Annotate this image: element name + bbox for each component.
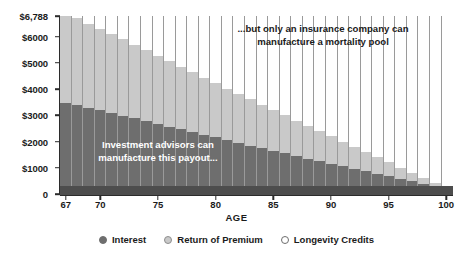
x-axis-tick-label: 90 — [326, 199, 337, 210]
x-axis-tick-label: 67 — [60, 199, 71, 210]
legend-label-interest: Interest — [112, 234, 146, 245]
y-axis-tick-label: 0 — [43, 189, 48, 200]
bar-segment-return-of-premium — [349, 147, 360, 169]
bar-column[interactable] — [441, 16, 453, 194]
x-axis-tick-mark — [100, 195, 101, 200]
y-axis-tick-label: $3000 — [22, 110, 48, 121]
bar-segment-return-of-premium — [199, 78, 210, 135]
bar-column[interactable] — [94, 16, 106, 194]
bar-segment-longevity-credits — [83, 16, 94, 24]
bar-segment-longevity-credits — [187, 16, 198, 72]
bar-segment-longevity-credits — [106, 16, 117, 34]
bar-segment-return-of-premium — [326, 136, 337, 164]
x-axis-tick-mark — [215, 195, 216, 200]
bar-column[interactable] — [198, 16, 210, 194]
ring-circle-icon — [164, 236, 172, 244]
x-axis-tick-label: 70 — [95, 199, 106, 210]
x-axis-line — [60, 195, 453, 196]
y-axis: $6,788$6000$5000$4000$3000$2000$10000 — [0, 0, 57, 266]
bar-segment-longevity-credits — [176, 16, 187, 67]
x-axis-tick-label: 95 — [383, 199, 394, 210]
bar-segment-longevity-credits — [442, 16, 453, 194]
x-axis-tick-mark — [330, 195, 331, 200]
legend-item-interest[interactable]: Interest — [99, 234, 146, 245]
baseline-band — [60, 186, 453, 195]
x-axis-tick-mark — [388, 195, 389, 200]
y-axis-tick-label: $6,788 — [20, 11, 48, 22]
y-axis-tick-label: $6000 — [22, 31, 48, 42]
bar-segment-longevity-credits — [153, 16, 164, 56]
legend-label-return-of-premium: Return of Premium — [177, 234, 263, 245]
annotation-insurance-note: ...but only an insurance company can man… — [218, 22, 428, 48]
bar-column[interactable] — [117, 16, 129, 194]
bar-segment-longevity-credits — [141, 16, 152, 50]
bar-segment-return-of-premium — [106, 34, 117, 113]
bar-column[interactable] — [140, 16, 152, 194]
y-axis-tick-label: $1000 — [22, 162, 48, 173]
bar-column[interactable] — [186, 16, 198, 194]
bar-column[interactable] — [128, 16, 140, 194]
bar-segment-return-of-premium — [176, 67, 187, 129]
bar-segment-return-of-premium — [118, 39, 129, 115]
bar-column[interactable] — [152, 16, 164, 194]
x-axis-tick-label: 75 — [153, 199, 164, 210]
bar-segment-longevity-credits — [164, 16, 175, 61]
bar-segment-return-of-premium — [83, 24, 94, 108]
bar-segment-return-of-premium — [153, 56, 164, 124]
bar-column[interactable] — [429, 16, 441, 194]
x-axis-tick-mark — [65, 195, 66, 200]
y-axis-tick-label: $5000 — [22, 57, 48, 68]
x-axis-tick-mark — [273, 195, 274, 200]
bar-column[interactable] — [105, 16, 117, 194]
bar-segment-return-of-premium — [384, 162, 395, 176]
bar-column[interactable] — [163, 16, 175, 194]
bar-segment-return-of-premium — [338, 142, 349, 167]
bar-segment-return-of-premium — [257, 105, 268, 149]
bar-segment-return-of-premium — [164, 61, 175, 126]
bar-column[interactable] — [60, 16, 71, 194]
bar-segment-interest — [60, 103, 71, 194]
bar-segment-return-of-premium — [314, 131, 325, 161]
x-axis-title: AGE — [0, 212, 473, 223]
bar-column[interactable] — [175, 16, 187, 194]
x-axis-tick-label: 100 — [438, 199, 454, 210]
bar-segment-return-of-premium — [210, 83, 221, 137]
bar-segment-return-of-premium — [233, 94, 244, 143]
hollow-circle-icon — [281, 236, 289, 244]
bar-segment-return-of-premium — [407, 173, 418, 182]
bar-segment-return-of-premium — [291, 121, 302, 156]
bar-column[interactable] — [82, 16, 94, 194]
bar-segment-return-of-premium — [303, 126, 314, 159]
bar-segment-return-of-premium — [280, 115, 291, 153]
bar-column[interactable] — [71, 16, 83, 194]
bar-segment-return-of-premium — [72, 18, 83, 105]
bar-segment-longevity-credits — [199, 16, 210, 78]
x-axis-tick-mark — [446, 195, 447, 200]
bar-segment-return-of-premium — [129, 45, 140, 118]
bar-segment-longevity-credits — [129, 16, 140, 45]
bar-segment-return-of-premium — [187, 72, 198, 132]
bar-segment-return-of-premium — [222, 89, 233, 141]
bar-segment-return-of-premium — [395, 168, 406, 180]
x-axis-tick-label: 85 — [268, 199, 279, 210]
bar-segment-longevity-credits — [118, 16, 129, 39]
x-axis-tick-mark — [157, 195, 158, 200]
legend-item-return-of-premium[interactable]: Return of Premium — [164, 234, 263, 245]
chart-legend: Interest Return of Premium Longevity Cre… — [0, 234, 473, 245]
bar-segment-return-of-premium — [141, 50, 152, 121]
bar-segment-longevity-credits — [430, 16, 441, 183]
stacked-bar-chart: $6,788$6000$5000$4000$3000$2000$10000 67… — [0, 0, 473, 266]
bar-segment-return-of-premium — [245, 99, 256, 145]
annotation-advisor-note: Investment advisors can manufacture this… — [78, 138, 238, 164]
bar-segment-return-of-premium — [268, 110, 279, 151]
bar-segment-return-of-premium — [372, 157, 383, 174]
bar-segment-return-of-premium — [361, 152, 372, 171]
bar-segment-return-of-premium — [95, 29, 106, 111]
x-axis-tick-label: 80 — [210, 199, 221, 210]
y-axis-tick-label: $4000 — [22, 84, 48, 95]
y-axis-tick-label: $2000 — [22, 136, 48, 147]
bar-segment-longevity-credits — [95, 16, 106, 29]
filled-circle-icon — [99, 236, 107, 244]
legend-item-longevity-credits[interactable]: Longevity Credits — [281, 234, 374, 245]
bar-segment-return-of-premium — [60, 16, 71, 103]
